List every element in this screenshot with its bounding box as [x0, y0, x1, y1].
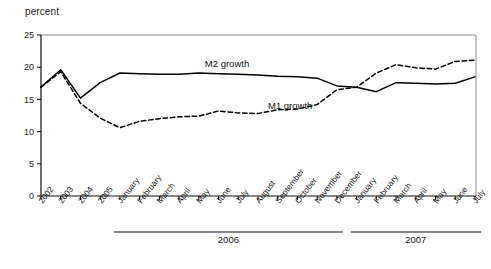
- series-line-m2: [41, 70, 475, 98]
- group-label: 2007: [405, 234, 426, 245]
- y-axis-tick-label: 25: [24, 30, 34, 40]
- y-axis-tick-label: 5: [29, 159, 34, 169]
- series-label-m2: M2 growth: [205, 58, 249, 69]
- x-axis-tick-label: May: [194, 186, 212, 205]
- group-label: 2006: [218, 234, 239, 245]
- chart-figure: percent 05101520252002200320042005Januar…: [0, 0, 491, 269]
- x-axis-tick-label: May: [431, 186, 449, 205]
- y-axis-tick-label: 15: [24, 95, 34, 105]
- y-axis-tick-label: 20: [24, 62, 34, 72]
- x-axis-tick-label: 2003: [56, 184, 76, 205]
- x-axis-tick-label: 2002: [36, 184, 56, 205]
- x-axis-tick-label: July: [233, 187, 251, 206]
- x-axis-tick-label: August: [253, 178, 277, 205]
- series-label-m1: M1 growth: [268, 100, 312, 111]
- x-axis-tick-label: June: [450, 184, 469, 205]
- x-axis-tick-label: July: [470, 187, 488, 206]
- y-axis-tick-label: 0: [29, 191, 34, 201]
- x-axis-tick-label: 2005: [95, 184, 115, 205]
- series-line-m1: [41, 60, 475, 128]
- x-axis-tick-label: 2004: [76, 184, 96, 205]
- x-axis-tick-label: June: [214, 184, 233, 205]
- line-chart-svg: 05101520252002200320042005JanuaryFebruar…: [0, 0, 491, 269]
- y-axis-tick-label: 10: [24, 127, 34, 137]
